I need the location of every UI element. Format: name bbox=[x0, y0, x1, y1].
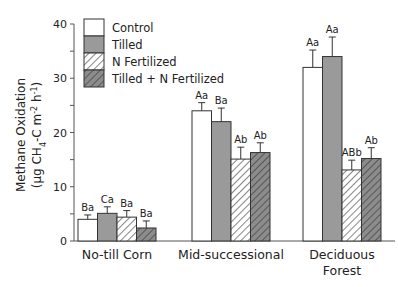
bar bbox=[78, 219, 98, 241]
y-tick-label: 40 bbox=[53, 18, 67, 31]
legend-label: Tilled + N Fertilized bbox=[111, 72, 224, 86]
bar bbox=[117, 217, 137, 241]
significance-label: Ba bbox=[215, 95, 228, 106]
x-category-label: Forest bbox=[323, 263, 361, 278]
bar bbox=[323, 57, 343, 241]
bar bbox=[303, 67, 323, 241]
bar-group-no-till-corn: BaCaBaBa bbox=[78, 194, 156, 241]
bar bbox=[251, 153, 271, 241]
significance-label: Aa bbox=[326, 24, 339, 35]
x-category-label: Deciduous bbox=[309, 247, 375, 262]
y-axis-title: Methane Oxidation bbox=[14, 78, 28, 192]
bar bbox=[342, 170, 362, 241]
significance-label: Aa bbox=[195, 90, 208, 101]
significance-label: Ca bbox=[101, 194, 114, 205]
y-tick-label: 0 bbox=[60, 235, 67, 248]
bar bbox=[137, 228, 157, 241]
x-category-label: No-till Corn bbox=[82, 247, 152, 262]
bar-group-mid-successional: AaBaAbAb bbox=[192, 90, 270, 241]
significance-label: Ba bbox=[81, 202, 94, 213]
significance-label: Ab bbox=[254, 130, 267, 141]
legend: ControlTilledN FertilizedTilled + N Fert… bbox=[84, 19, 224, 87]
legend-swatch bbox=[84, 19, 104, 36]
significance-label: ABb bbox=[342, 147, 362, 158]
legend-swatch bbox=[84, 36, 104, 53]
legend-swatch bbox=[84, 70, 104, 87]
y-tick-label: 10 bbox=[53, 181, 67, 194]
y-axis-units: (μg CH4-C m-2 h-1) bbox=[30, 82, 48, 189]
y-tick-label: 20 bbox=[53, 127, 67, 140]
x-axis-labels: No-till CornMid-successionalDeciduousFor… bbox=[82, 247, 375, 278]
significance-label: Ba bbox=[120, 198, 133, 209]
y-axis-label: Methane Oxidation(μg CH4-C m-2 h-1) bbox=[14, 78, 48, 192]
legend-swatch bbox=[84, 53, 104, 70]
bar bbox=[231, 159, 251, 241]
significance-label: Ab bbox=[234, 134, 247, 145]
bar bbox=[98, 213, 118, 241]
significance-label: Aa bbox=[306, 37, 319, 48]
x-category-label: Mid-successional bbox=[178, 247, 284, 262]
significance-label: Ba bbox=[140, 208, 153, 219]
y-tick-label: 30 bbox=[53, 72, 67, 85]
bar-chart: Methane Oxidation(μg CH4-C m-2 h-1) 0102… bbox=[0, 0, 398, 287]
bar bbox=[192, 111, 212, 241]
bar-group-deciduous-forest: AaAaABbAb bbox=[303, 24, 381, 241]
significance-label: Ab bbox=[365, 135, 378, 146]
legend-label: Tilled bbox=[111, 38, 143, 52]
legend-label: Control bbox=[112, 21, 154, 35]
legend-label: N Fertilized bbox=[112, 55, 177, 69]
bar bbox=[212, 122, 232, 241]
bar bbox=[362, 159, 382, 241]
